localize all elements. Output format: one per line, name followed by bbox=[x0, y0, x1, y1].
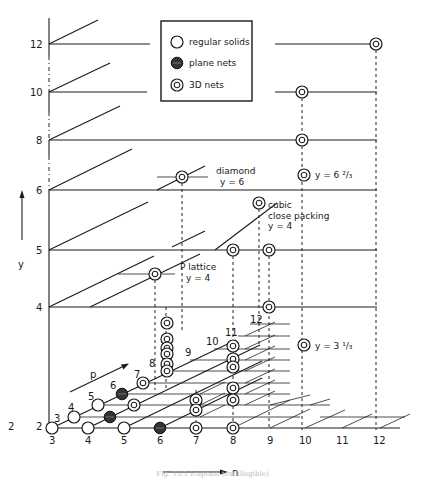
svg-text:7: 7 bbox=[193, 435, 199, 446]
svg-text:5: 5 bbox=[121, 435, 127, 446]
label-y-6-2-3: y = 6 ²/₃ bbox=[315, 170, 353, 180]
svg-text:12: 12 bbox=[30, 39, 43, 50]
svg-text:11: 11 bbox=[336, 435, 349, 446]
svg-text:8: 8 bbox=[230, 435, 236, 446]
filled-circle-icon bbox=[171, 57, 183, 69]
svg-text:6: 6 bbox=[157, 435, 163, 446]
legend-3d-nets: 3D nets bbox=[189, 80, 224, 90]
svg-text:y = 4: y = 4 bbox=[268, 221, 293, 231]
svg-text:8: 8 bbox=[149, 358, 155, 369]
open-circle-icon bbox=[171, 36, 183, 48]
label-p-lattice: P lattice bbox=[180, 262, 217, 272]
y-tick-labels: 12 10 8 6 5 4 2 bbox=[30, 39, 43, 432]
svg-text:11: 11 bbox=[225, 327, 238, 338]
svg-text:12: 12 bbox=[373, 435, 386, 446]
svg-text:4: 4 bbox=[85, 435, 91, 446]
svg-text:10: 10 bbox=[30, 87, 43, 98]
svg-text:2: 2 bbox=[36, 421, 42, 432]
legend: regular solids plane nets 3D nets bbox=[161, 21, 252, 101]
svg-text:10: 10 bbox=[299, 435, 312, 446]
legend-plane-nets: plane nets bbox=[189, 58, 237, 68]
svg-text:y: y bbox=[18, 259, 24, 270]
nets-diagram: 12 10 8 6 5 4 2 y regular solids plane n… bbox=[0, 0, 425, 484]
svg-text:3: 3 bbox=[49, 435, 55, 446]
projection-lines bbox=[155, 44, 376, 430]
legend-regular-solids: regular solids bbox=[189, 37, 250, 47]
label-diamond: diamond bbox=[216, 166, 255, 176]
n-tick-labels: 3 4 5 6 7 8 9 10 11 12 bbox=[49, 435, 386, 446]
annotations: diamond y = 6 cubic close packing y = 4 … bbox=[180, 166, 353, 351]
svg-text:6: 6 bbox=[110, 380, 116, 391]
svg-text:10: 10 bbox=[206, 336, 219, 347]
svg-text:8: 8 bbox=[36, 135, 42, 146]
svg-text:5: 5 bbox=[36, 245, 42, 256]
svg-text:p: p bbox=[90, 369, 96, 380]
y-axis-arrow: y bbox=[18, 190, 25, 270]
svg-text:y = 4: y = 4 bbox=[186, 273, 211, 283]
label-y-3-1-3: y = 3 ¹/₃ bbox=[315, 341, 353, 351]
double-circle-icon bbox=[171, 79, 183, 91]
figure-caption: Fig. 13.1 (caption text illegible) bbox=[0, 470, 425, 478]
svg-text:close packing: close packing bbox=[268, 211, 329, 221]
svg-text:12: 12 bbox=[250, 314, 263, 325]
svg-text:y = 6: y = 6 bbox=[220, 177, 245, 187]
svg-text:4: 4 bbox=[36, 302, 42, 313]
svg-text:6: 6 bbox=[36, 185, 42, 196]
svg-text:9: 9 bbox=[267, 435, 273, 446]
p-tick-labels: 2 3 4 5 6 7 8 9 10 11 12 bbox=[8, 314, 263, 432]
svg-text:2: 2 bbox=[8, 421, 14, 432]
p-axis-arrow: p bbox=[70, 364, 129, 393]
label-cubic-close-packing: cubic bbox=[268, 200, 292, 210]
svg-text:9: 9 bbox=[185, 347, 191, 358]
